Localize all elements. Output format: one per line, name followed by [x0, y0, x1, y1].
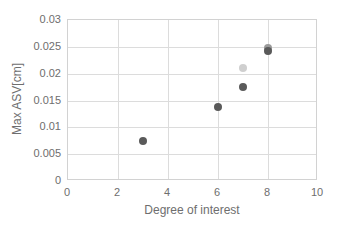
- x-axis-tick-label: 8: [247, 187, 287, 198]
- y-axis-tick-label: 0: [0, 175, 61, 186]
- x-axis-title: Degree of interest: [67, 203, 317, 217]
- gridline-vertical: [118, 20, 119, 179]
- data-point-marker: [239, 64, 247, 72]
- gridline-horizontal: [68, 74, 316, 75]
- gridline-vertical: [218, 20, 219, 179]
- plot-area: [67, 19, 317, 180]
- scatter-chart-figure: 00.0050.010.0150.020.0250.03 0246810 Deg…: [0, 0, 340, 228]
- y-axis-title: Max ASV[cm]: [10, 39, 24, 159]
- x-axis-tick-label: 10: [297, 187, 337, 198]
- gridline-horizontal: [68, 154, 316, 155]
- x-axis-tick-label: 2: [97, 187, 137, 198]
- data-point-marker: [139, 137, 147, 145]
- gridline-horizontal: [68, 127, 316, 128]
- y-axis-tick-label: 0.03: [0, 14, 61, 25]
- x-axis-tick-label: 6: [197, 187, 237, 198]
- data-point-marker: [214, 103, 222, 111]
- data-point-marker: [264, 47, 272, 55]
- gridline-vertical: [168, 20, 169, 179]
- gridline-horizontal: [68, 101, 316, 102]
- data-point-marker: [239, 83, 247, 91]
- gridline-horizontal: [68, 47, 316, 48]
- x-axis-tick-label: 0: [47, 187, 87, 198]
- x-axis-tick-label: 4: [147, 187, 187, 198]
